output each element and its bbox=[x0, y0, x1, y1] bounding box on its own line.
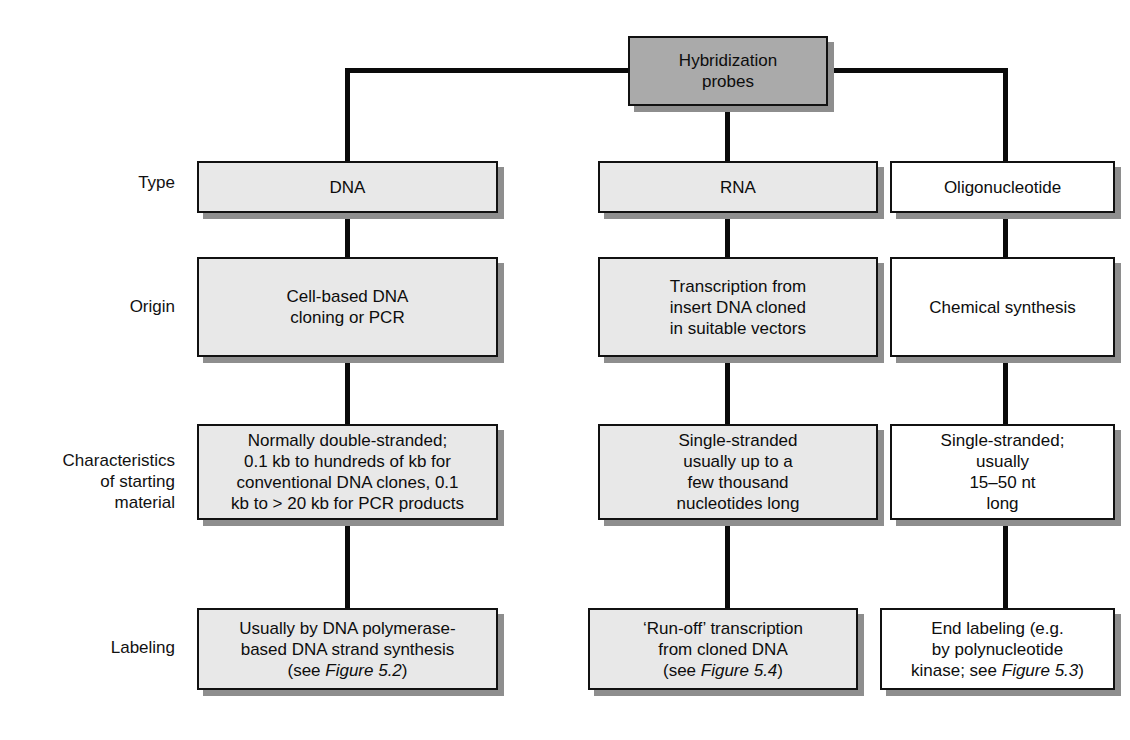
root-box-hybridization-probes: Hybridization probes bbox=[628, 36, 828, 106]
dna-origin-box: Cell-based DNA cloning or PCR bbox=[197, 257, 498, 357]
oligo-connector-origin-to-characteristics bbox=[1003, 355, 1008, 427]
row-label-type: Type bbox=[0, 172, 175, 193]
rna-characteristics-label: Single-stranded usually up to a few thou… bbox=[671, 430, 806, 514]
dna-origin-label: Cell-based DNA cloning or PCR bbox=[281, 286, 415, 328]
rna-labeling-label: ‘Run-off’ transcription from cloned DNA … bbox=[637, 618, 809, 681]
rna-origin-label: Transcription from insert DNA cloned in … bbox=[664, 276, 812, 339]
oligo-labeling-label: End labeling (e.g. by polynucleotide kin… bbox=[905, 618, 1090, 681]
oligo-origin-label: Chemical synthesis bbox=[923, 297, 1081, 318]
flowchart-diagram: Hybridization probes Type Origin Charact… bbox=[0, 0, 1130, 740]
oligo-labeling-box: End labeling (e.g. by polynucleotide kin… bbox=[880, 608, 1115, 690]
row-label-origin: Origin bbox=[0, 296, 175, 317]
rna-type-box: RNA bbox=[598, 161, 878, 213]
oligo-connector-characteristics-to-labeling bbox=[1003, 518, 1008, 610]
rna-origin-box: Transcription from insert DNA cloned in … bbox=[598, 257, 878, 357]
dna-type-box: DNA bbox=[197, 161, 498, 213]
dna-connector-characteristics-to-labeling bbox=[345, 518, 350, 610]
connector-left-vertical-drop bbox=[345, 68, 350, 163]
dna-characteristics-label: Normally double-stranded; 0.1 kb to hund… bbox=[225, 430, 470, 514]
dna-connector-origin-to-characteristics bbox=[345, 355, 350, 427]
oligo-characteristics-box: Single-stranded; usually 15–50 nt long bbox=[890, 424, 1115, 520]
oligo-origin-box: Chemical synthesis bbox=[890, 257, 1115, 357]
oligo-type-label: Oligonucleotide bbox=[938, 177, 1067, 198]
rna-connector-characteristics-to-labeling bbox=[725, 518, 730, 610]
row-label-labeling: Labeling bbox=[0, 637, 175, 658]
row-label-characteristics: Characteristics of starting material bbox=[0, 450, 175, 513]
dna-characteristics-box: Normally double-stranded; 0.1 kb to hund… bbox=[197, 424, 498, 520]
rna-characteristics-box: Single-stranded usually up to a few thou… bbox=[598, 424, 878, 520]
connector-root-to-right-horizontal bbox=[824, 68, 1008, 73]
oligo-type-box: Oligonucleotide bbox=[890, 161, 1115, 213]
connector-root-to-left-horizontal bbox=[348, 68, 632, 73]
dna-labeling-box: Usually by DNA polymerase- based DNA str… bbox=[197, 608, 498, 690]
connector-right-vertical-drop bbox=[1003, 68, 1008, 163]
oligo-characteristics-label: Single-stranded; usually 15–50 nt long bbox=[935, 430, 1071, 514]
rna-connector-origin-to-characteristics bbox=[725, 355, 730, 427]
dna-type-label: DNA bbox=[324, 177, 372, 198]
connector-center-vertical-drop bbox=[725, 104, 730, 164]
rna-type-label: RNA bbox=[714, 177, 762, 198]
rna-labeling-box: ‘Run-off’ transcription from cloned DNA … bbox=[588, 608, 858, 690]
root-box-label: Hybridization probes bbox=[673, 50, 783, 92]
dna-labeling-label: Usually by DNA polymerase- based DNA str… bbox=[233, 618, 461, 681]
